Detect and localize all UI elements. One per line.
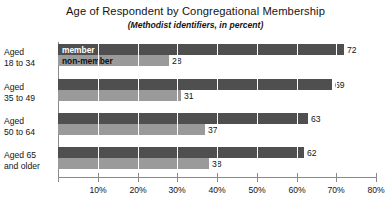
bar-member	[58, 113, 308, 124]
bar-member	[58, 147, 304, 158]
x-tick-30	[177, 173, 178, 182]
x-tick-60	[297, 173, 298, 182]
value-label-member: 72	[344, 45, 357, 55]
bar-row-nonmember: 31	[58, 90, 376, 101]
category-label-35-49: Aged 35 to 49	[4, 82, 56, 103]
chart-title: Age of Respondent by Congregational Memb…	[0, 4, 391, 18]
x-tick-10	[98, 173, 99, 182]
category-label-line2: 35 to 49	[4, 93, 56, 104]
category-label-line1: Aged	[4, 82, 56, 93]
legend-label-non-member: non-member	[62, 56, 113, 66]
value-label-non-member: 28	[169, 56, 182, 66]
x-tick-label-80: 80%	[367, 185, 384, 195]
x-tick-label-60: 60%	[288, 185, 305, 195]
value-label-member: 63	[308, 114, 321, 124]
bar-row-member: 63	[58, 113, 376, 124]
chart-subtitle: (Methodist identifiers, in percent)	[0, 19, 391, 31]
bar-member	[58, 79, 332, 90]
value-label-member: 62	[304, 148, 317, 158]
bar-non-member	[58, 124, 205, 135]
category-label-line1: Aged 65	[4, 150, 56, 161]
x-tick-label-30: 30%	[168, 185, 185, 195]
plot-area: member 72 non-member 28 69 31	[58, 42, 376, 177]
bar-member	[58, 44, 344, 55]
category-label-line2: 50 to 64	[4, 127, 56, 138]
x-tick-80	[376, 173, 377, 182]
bar-row-member: 62	[58, 147, 376, 158]
value-label-non-member: 37	[205, 125, 218, 135]
x-tick-label-20: 20%	[129, 185, 146, 195]
category-label-18-34: Aged 18 to 34	[4, 47, 56, 68]
x-tick-label-40: 40%	[208, 185, 225, 195]
x-tick-0	[58, 173, 59, 182]
category-label-line2: 18 to 34	[4, 58, 56, 69]
category-label-line1: Aged	[4, 47, 56, 58]
category-label-line2: and older	[4, 161, 56, 172]
bar-row-member: member 72	[58, 44, 376, 55]
x-tick-50	[257, 173, 258, 182]
category-label-65-older: Aged 65 and older	[4, 150, 56, 171]
bar-chart-figure: Age of Respondent by Congregational Memb…	[0, 0, 391, 217]
category-label-50-64: Aged 50 to 64	[4, 116, 56, 137]
bar-row-nonmember: non-member 28	[58, 55, 376, 66]
value-label-non-member: 38	[209, 159, 222, 169]
category-label-line1: Aged	[4, 116, 56, 127]
bar-non-member	[58, 158, 209, 169]
value-label-member: 69	[332, 80, 345, 90]
x-tick-label-70: 70%	[327, 185, 344, 195]
bar-group-35-49: 69 31	[58, 79, 376, 101]
bar-group-18-34: member 72 non-member 28	[58, 44, 376, 66]
x-tick-label-10: 10%	[89, 185, 106, 195]
bar-non-member	[58, 90, 181, 101]
x-tick-70	[336, 173, 337, 182]
x-tick-label-50: 50%	[248, 185, 265, 195]
value-label-non-member: 31	[181, 91, 194, 101]
x-axis: 10% 20% 30% 40% 50% 60% 70% 80%	[58, 177, 376, 179]
x-tick-40	[217, 173, 218, 182]
x-tick-20	[138, 173, 139, 182]
bar-row-nonmember: 38	[58, 158, 376, 169]
legend-label-member: member	[62, 45, 95, 55]
bar-row-member: 69	[58, 79, 376, 90]
title-block: Age of Respondent by Congregational Memb…	[0, 4, 391, 31]
bar-group-50-64: 63 37	[58, 113, 376, 135]
bar-group-65-older: 62 38	[58, 147, 376, 169]
bar-row-nonmember: 37	[58, 124, 376, 135]
